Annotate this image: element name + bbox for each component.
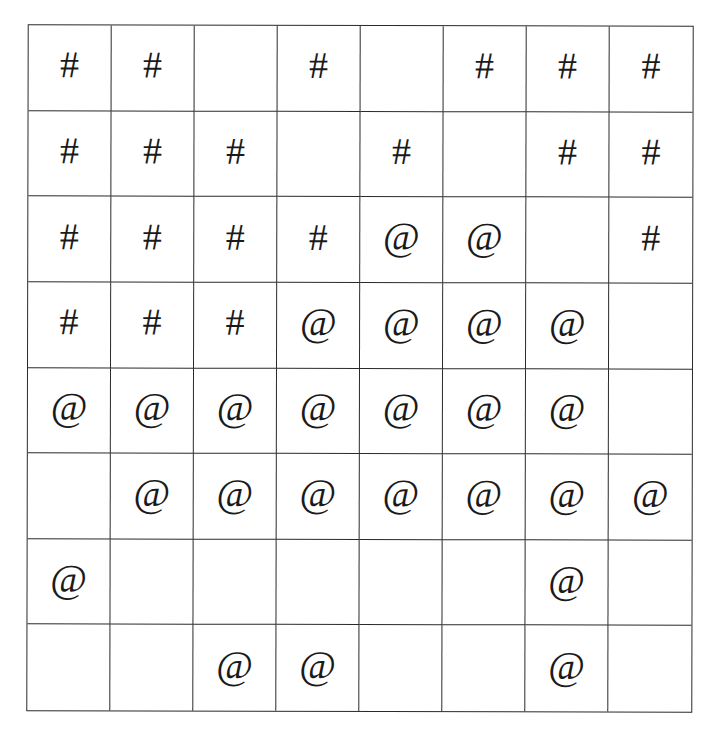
grid-cell-r3-c8-hash: # — [609, 198, 692, 284]
grid-cell-r4-c2-hash: # — [111, 282, 194, 368]
grid-cell-r4-c3-hash: # — [194, 283, 277, 369]
grid-cell-r4-c5-at: @ — [360, 283, 443, 369]
grid-cell-r3-c7-empty — [526, 198, 609, 284]
grid-cell-r5-c2-at: @ — [111, 368, 194, 454]
grid-cell-r5-c3-at: @ — [194, 368, 277, 454]
symbol-grid: ################@@####@@@@@@@@@@@@@@@@@@… — [26, 24, 693, 712]
grid-cell-r4-c1-hash: # — [28, 282, 111, 368]
grid-cell-r1-c3-empty — [195, 26, 278, 112]
grid-cell-r3-c6-at: @ — [443, 197, 526, 283]
grid-cell-r8-c6-empty — [442, 626, 525, 712]
grid-cell-r5-c8-empty — [609, 369, 692, 455]
grid-cell-r6-c7-at: @ — [526, 454, 609, 540]
grid-cell-r6-c6-at: @ — [443, 454, 526, 540]
grid-cell-r7-c4-empty — [276, 540, 359, 626]
grid-cell-r7-c3-empty — [193, 539, 276, 625]
grid-cell-r8-c2-empty — [110, 625, 193, 711]
grid-cell-r4-c4-at: @ — [277, 283, 360, 369]
grid-cell-r6-c5-at: @ — [360, 454, 443, 540]
grid-cell-r2-c4-empty — [277, 111, 360, 197]
grid-cell-r8-c4-at: @ — [276, 625, 359, 711]
grid-cell-r2-c1-hash: # — [28, 111, 111, 197]
grid-cell-r5-c5-at: @ — [360, 369, 443, 455]
grid-cell-r7-c5-empty — [359, 540, 442, 626]
grid-cell-r5-c4-at: @ — [277, 368, 360, 454]
grid-cell-r6-c1-empty — [28, 453, 111, 539]
grid-cell-r4-c6-at: @ — [443, 283, 526, 369]
grid-cell-r3-c2-hash: # — [111, 197, 194, 283]
grid-cell-r8-c3-at: @ — [193, 625, 276, 711]
grid-cell-r7-c1-at: @ — [27, 539, 110, 625]
grid-cell-r6-c2-at: @ — [111, 454, 194, 540]
grid-cell-r6-c3-at: @ — [194, 454, 277, 540]
grid-cell-r4-c8-empty — [609, 283, 692, 369]
grid-cell-r1-c7-hash: # — [527, 26, 610, 112]
grid-cell-r7-c6-empty — [442, 540, 525, 626]
grid-cell-r6-c4-at: @ — [277, 454, 360, 540]
grid-cell-r7-c7-at: @ — [525, 540, 608, 626]
grid-cell-r7-c8-empty — [608, 540, 691, 626]
grid-cell-r4-c7-at: @ — [526, 283, 609, 369]
grid-cell-r8-c7-at: @ — [525, 626, 608, 712]
grid-cell-r1-c2-hash: # — [112, 25, 195, 111]
grid-cell-r2-c3-hash: # — [194, 111, 277, 197]
grid-cell-r8-c1-empty — [27, 625, 110, 711]
grid-cell-r2-c7-hash: # — [526, 112, 609, 198]
grid-cell-r3-c5-at: @ — [360, 197, 443, 283]
grid-cell-r3-c1-hash: # — [28, 197, 111, 283]
grid-cell-r6-c8-at: @ — [609, 455, 692, 541]
grid-cell-r2-c2-hash: # — [111, 111, 194, 197]
grid-cell-r3-c4-hash: # — [277, 197, 360, 283]
grid-cell-r5-c1-at: @ — [28, 368, 111, 454]
grid-cell-r1-c8-hash: # — [610, 27, 693, 113]
grid-cell-r1-c6-hash: # — [444, 26, 527, 112]
grid-cell-r7-c2-empty — [110, 539, 193, 625]
grid-cell-r2-c6-empty — [443, 112, 526, 198]
grid-cell-r1-c1-hash: # — [29, 25, 112, 111]
grid-cell-r3-c3-hash: # — [194, 197, 277, 283]
grid-cell-r1-c5-empty — [361, 26, 444, 112]
grid-cell-r2-c8-hash: # — [609, 112, 692, 198]
grid-cell-r8-c8-empty — [608, 626, 691, 712]
grid-cell-r1-c4-hash: # — [278, 26, 361, 112]
grid-cell-r8-c5-empty — [359, 625, 442, 711]
grid-cell-r2-c5-hash: # — [360, 112, 443, 198]
grid-cell-r5-c6-at: @ — [443, 369, 526, 455]
grid-cell-r5-c7-at: @ — [526, 369, 609, 455]
